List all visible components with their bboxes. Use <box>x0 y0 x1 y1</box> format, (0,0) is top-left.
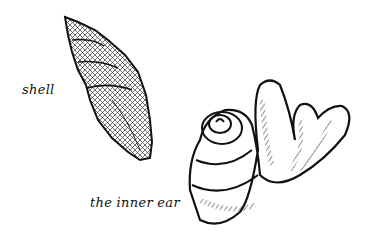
inner-ear-drawing <box>190 81 350 224</box>
shell-label: shell <box>22 82 55 97</box>
illustration-canvas <box>0 0 373 243</box>
inner-ear-label: the inner ear <box>90 195 180 210</box>
shell-drawing <box>65 17 152 160</box>
